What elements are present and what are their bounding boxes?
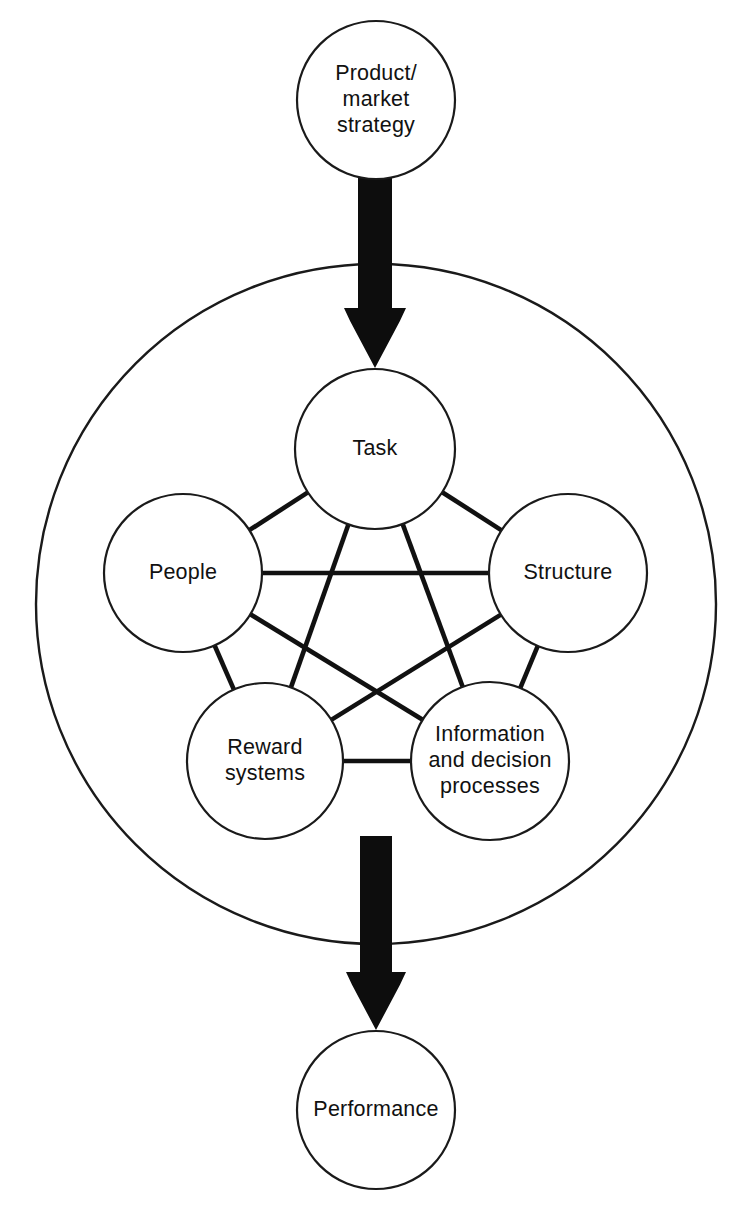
node-label-line: market: [343, 87, 410, 111]
node-label-line: and decision: [428, 748, 551, 772]
node-label-line: strategy: [337, 113, 415, 137]
node-reward_systems: Rewardsystems: [187, 683, 343, 839]
link-structure-to-information_and_decision_processes: [520, 645, 538, 689]
node-label-line: Reward: [227, 735, 302, 759]
node-label-line: processes: [440, 774, 540, 798]
link-task-to-structure: [441, 492, 502, 531]
node-label-line: Product/: [335, 61, 417, 85]
node-label-line: People: [149, 560, 217, 584]
node-label-line: Task: [352, 436, 397, 460]
link-people-to-reward_systems: [214, 644, 234, 690]
flow-arrows-layer: [344, 176, 406, 1030]
node-label-line: systems: [225, 761, 305, 785]
link-task-to-information_and_decision_processes: [402, 523, 463, 688]
node-performance: Performance: [297, 1031, 455, 1189]
node-product_market_strategy: Product/marketstrategy: [297, 21, 455, 179]
node-label-people: People: [149, 560, 217, 584]
link-task-to-reward_systems: [291, 524, 349, 689]
diagram-root: Product/marketstrategyTaskPeopleStructur…: [0, 0, 742, 1206]
node-label-line: Information: [435, 722, 545, 746]
star-model-diagram: Product/marketstrategyTaskPeopleStructur…: [0, 0, 742, 1206]
node-label-line: Structure: [523, 560, 612, 584]
organization-to-performance-arrow: [346, 836, 406, 1030]
node-task: Task: [295, 369, 455, 529]
node-structure: Structure: [489, 494, 647, 652]
node-people: People: [104, 494, 262, 652]
link-task-to-people: [249, 492, 309, 531]
node-label-task: Task: [352, 436, 397, 460]
node-label-line: Performance: [313, 1097, 438, 1121]
node-label-structure: Structure: [523, 560, 612, 584]
node-label-information_and_decision_processes: Informationand decisionprocesses: [428, 722, 551, 798]
strategy-to-task-arrow: [344, 176, 406, 368]
node-information_and_decision_processes: Informationand decisionprocesses: [411, 682, 569, 840]
node-label-product_market_strategy: Product/marketstrategy: [335, 61, 417, 137]
node-label-performance: Performance: [313, 1097, 438, 1121]
